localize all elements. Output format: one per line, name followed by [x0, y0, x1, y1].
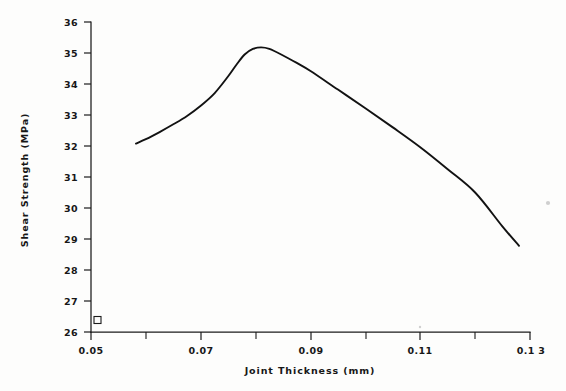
- y-tick-label: 34: [64, 79, 78, 90]
- y-tick-label: 33: [64, 110, 78, 121]
- paper-speck-icon: [419, 326, 421, 328]
- x-tick-label: 0.09: [298, 345, 323, 356]
- y-tick-label: 28: [64, 265, 78, 276]
- y-tick-label: 32: [64, 141, 78, 152]
- y-tick-label: 27: [64, 296, 78, 307]
- scan-artifacts: [419, 201, 550, 328]
- x-tick-label: 0.07: [188, 345, 213, 356]
- origin-square-marker: [94, 317, 101, 324]
- y-axis-tick-labels: 26 27 28 29 30 31 32 33 34 35 36: [64, 17, 78, 338]
- y-tick-label: 36: [64, 17, 78, 28]
- data-curve-line: [136, 47, 519, 245]
- y-axis-title: Shear Strength (MPa): [19, 113, 30, 247]
- y-tick-label: 30: [64, 203, 78, 214]
- figure-canvas: 26 27 28 29 30 31 32 33 34 35 36 0.05: [0, 0, 566, 391]
- x-tick-label: 0.05: [78, 345, 103, 356]
- y-axis-ticks: [84, 22, 91, 332]
- y-tick-label: 29: [64, 234, 78, 245]
- y-tick-label: 31: [64, 172, 78, 183]
- x-tick-label: 0.11: [407, 345, 432, 356]
- x-axis-title: Joint Thickness (mm): [244, 365, 376, 376]
- x-tick-label: 0.1 3: [517, 345, 546, 356]
- y-tick-label: 26: [64, 327, 78, 338]
- y-tick-label: 35: [64, 48, 78, 59]
- x-axis-ticks: [91, 332, 530, 340]
- x-axis-tick-labels: 0.05 0.07 0.09 0.11 0.1 3: [78, 345, 545, 356]
- chart-plot: 26 27 28 29 30 31 32 33 34 35 36 0.05: [0, 0, 566, 391]
- paper-speck-icon: [546, 201, 550, 205]
